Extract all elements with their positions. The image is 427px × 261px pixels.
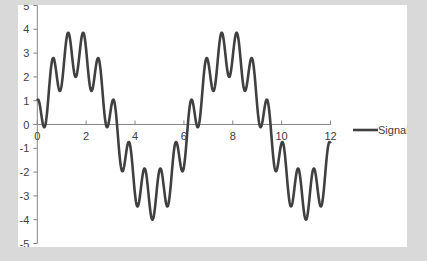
x-tick-label: 10: [276, 130, 288, 142]
y-tick-label: 0: [23, 119, 29, 131]
line-chart: 543210-1-2-3-4-5024681012Signal: [18, 5, 407, 247]
y-tick-label: -1: [20, 142, 30, 154]
y-tick-label: -4: [20, 214, 30, 226]
y-tick-label: 4: [23, 23, 29, 35]
series-line-signal: [37, 33, 330, 220]
legend-label-signal: Signal: [378, 124, 407, 136]
y-tick-label: 1: [23, 95, 29, 107]
y-tick-label: 3: [23, 47, 29, 59]
y-tick-label: 2: [23, 71, 29, 83]
y-tick-label: -3: [20, 190, 30, 202]
y-tick-label: -5: [20, 238, 30, 248]
x-tick-label: 0: [34, 130, 40, 142]
chart-area: 543210-1-2-3-4-5024681012Signal: [18, 5, 407, 247]
y-tick-label: 5: [23, 5, 29, 12]
y-tick-label: -2: [20, 166, 30, 178]
x-tick-label: 12: [324, 130, 336, 142]
x-tick-label: 4: [132, 130, 138, 142]
x-tick-label: 8: [230, 130, 236, 142]
x-tick-label: 2: [83, 130, 89, 142]
